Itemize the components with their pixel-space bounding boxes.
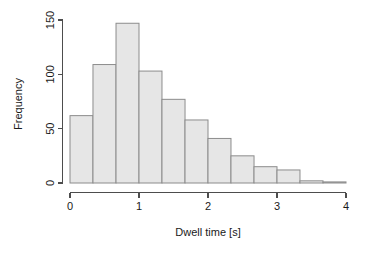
y-tick-label: 0	[44, 180, 56, 186]
histogram-bar	[139, 71, 162, 183]
x-tick-label: 4	[343, 200, 349, 212]
histogram-bar	[116, 23, 139, 183]
histogram-bar	[185, 120, 208, 183]
histogram-bar	[162, 99, 185, 183]
histogram-bar	[70, 116, 93, 183]
y-axis-title: Frequency	[12, 78, 24, 130]
histogram-bar	[323, 182, 346, 183]
plot-canvas: 050100150 01234 Frequency Dwell time [s]	[0, 0, 376, 258]
bars-group	[70, 23, 346, 183]
y-tick-labels: 050100150	[44, 11, 56, 186]
y-tick-label: 150	[44, 11, 56, 29]
y-tick-label: 50	[44, 123, 56, 135]
histogram-bar	[300, 181, 323, 183]
x-tick-label: 3	[274, 200, 280, 212]
x-axis-title: Dwell time [s]	[175, 226, 240, 238]
x-tick-label: 2	[205, 200, 211, 212]
histogram-bar	[254, 167, 277, 183]
x-tick-label: 0	[67, 200, 73, 212]
y-tick-label: 100	[44, 65, 56, 83]
histogram-bar	[231, 156, 254, 183]
x-tick-label: 1	[136, 200, 142, 212]
histogram-bar	[93, 65, 116, 183]
histogram-bar	[208, 138, 231, 183]
histogram-bar	[277, 170, 300, 183]
x-tick-labels: 01234	[67, 200, 349, 212]
y-tick-marks	[58, 20, 63, 183]
x-tick-marks	[70, 193, 346, 198]
histogram-plot: 050100150 01234 Frequency Dwell time [s]	[0, 0, 376, 258]
